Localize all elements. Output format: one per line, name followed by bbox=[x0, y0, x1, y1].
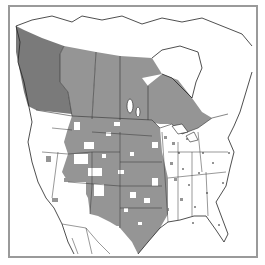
range-saskatchewan bbox=[92, 52, 120, 120]
map-frame bbox=[8, 5, 258, 258]
mexico-borders bbox=[62, 224, 110, 254]
north-america-map bbox=[10, 7, 258, 258]
